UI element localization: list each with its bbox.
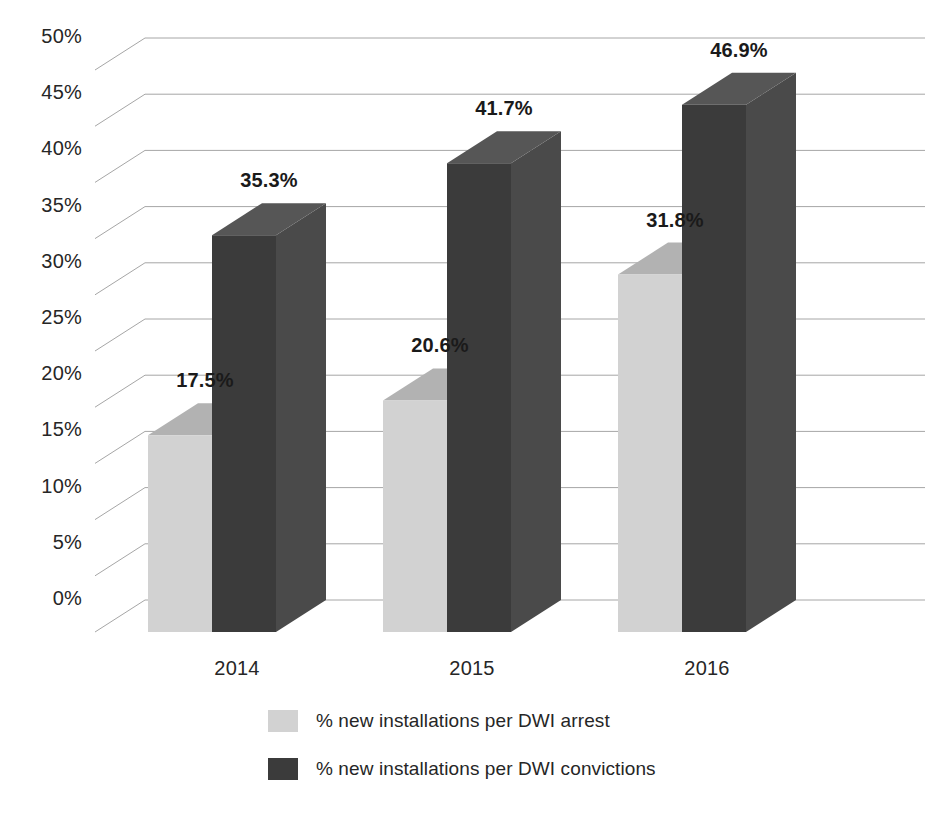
y-tick-label: 45%	[20, 81, 82, 104]
y-tick-label: 50%	[20, 25, 82, 48]
y-tick-label: 15%	[20, 418, 82, 441]
legend-item-arrest[interactable]: % new installations per DWI arrest	[0, 697, 925, 745]
y-tick-label: 25%	[20, 306, 82, 329]
bar-front-face	[447, 163, 511, 632]
data-label-g2_light: 31.8%	[610, 209, 740, 232]
x-tick-label-2016: 2016	[627, 657, 787, 680]
y-tick-label: 5%	[20, 531, 82, 554]
data-label-g0_dark: 35.3%	[204, 169, 334, 192]
y-tick-label: 20%	[20, 362, 82, 385]
y-tick-label: 0%	[20, 587, 82, 610]
bar-side-face	[276, 203, 326, 632]
legend-item-convictions[interactable]: % new installations per DWI convictions	[0, 745, 925, 793]
legend-label-arrest: % new installations per DWI arrest	[316, 710, 610, 732]
bar-chart: 50%45%40%35%30%25%20%15%10%5%0% 20142015…	[0, 0, 925, 827]
legend-label-convictions: % new installations per DWI convictions	[316, 758, 656, 780]
y-tick-label: 40%	[20, 137, 82, 160]
bar-side-face	[746, 73, 796, 632]
bar-front-face	[212, 235, 276, 632]
legend-swatch-convictions	[268, 758, 298, 780]
bar-front-face	[148, 435, 212, 632]
y-tick-label: 30%	[20, 250, 82, 273]
legend-swatch-arrest	[268, 710, 298, 732]
x-tick-label-2014: 2014	[157, 657, 317, 680]
data-label-g0_light: 17.5%	[140, 369, 270, 392]
bar-side-face	[511, 131, 561, 632]
bar-front-face	[682, 105, 746, 632]
data-label-g1_light: 20.6%	[375, 334, 505, 357]
legend: % new installations per DWI arrest % new…	[0, 697, 925, 793]
y-tick-label: 35%	[20, 194, 82, 217]
data-label-g2_dark: 46.9%	[674, 39, 804, 62]
x-tick-label-2015: 2015	[392, 657, 552, 680]
y-tick-label: 10%	[20, 475, 82, 498]
data-label-g1_dark: 41.7%	[439, 97, 569, 120]
bar-front-face	[383, 400, 447, 632]
bar-front-face	[618, 275, 682, 632]
